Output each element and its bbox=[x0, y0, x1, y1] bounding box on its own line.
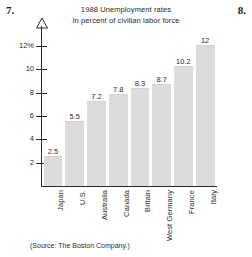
x-axis-category-label: Japan bbox=[56, 190, 65, 211]
y-axis-tick-label-wrap: 10 bbox=[0, 65, 34, 73]
bar-value-label: 12 bbox=[194, 36, 216, 45]
bar[interactable] bbox=[109, 94, 128, 186]
bar[interactable] bbox=[152, 84, 171, 187]
bar[interactable] bbox=[65, 121, 84, 186]
bar-slot: 10.2 bbox=[173, 46, 195, 186]
bar-slot: 8.7 bbox=[151, 46, 173, 186]
bar-chart: 24681012% 2.55.57.27.88.38.710.212 Japan… bbox=[0, 0, 252, 257]
bar-value-label: 5.5 bbox=[64, 112, 86, 121]
y-axis-tick-label: 4 bbox=[0, 135, 34, 143]
bar-slot: 2.5 bbox=[42, 46, 64, 186]
y-axis-tick-label-wrap: 12% bbox=[0, 42, 34, 50]
bar-value-label: 8.7 bbox=[151, 75, 173, 84]
y-axis-tick-label-wrap: 4 bbox=[0, 135, 34, 143]
bar[interactable] bbox=[131, 88, 150, 186]
y-axis-tick-label: 12% bbox=[0, 42, 34, 50]
x-axis-category-label: Canada bbox=[122, 190, 131, 217]
bar-slot: 7.2 bbox=[86, 46, 108, 186]
x-axis-line bbox=[41, 186, 217, 187]
x-axis-category-label: Italy bbox=[209, 190, 218, 204]
y-axis-tick-label: 8 bbox=[0, 89, 34, 97]
bar[interactable] bbox=[196, 45, 215, 186]
bars-group: 2.55.57.27.88.38.710.212 bbox=[42, 46, 216, 186]
y-axis-tick-label-wrap: 8 bbox=[0, 89, 34, 97]
y-axis-tick-label: 6 bbox=[0, 112, 34, 120]
x-axis-category-label: U.S. bbox=[78, 190, 87, 205]
bar[interactable] bbox=[44, 156, 63, 186]
bar-value-label: 2.5 bbox=[42, 147, 64, 156]
figure-panel: 7. 8. 1988 Unemployment rates In percent… bbox=[0, 0, 252, 257]
source-note: (Source: The Boston Company.) bbox=[30, 242, 130, 249]
x-axis-category-label: Australia bbox=[100, 190, 109, 220]
bar-slot: 12 bbox=[194, 46, 216, 186]
y-axis-tick-label-wrap: 2 bbox=[0, 159, 34, 167]
bar[interactable] bbox=[87, 101, 106, 186]
bar-value-label: 7.2 bbox=[86, 92, 108, 101]
bar-value-label: 10.2 bbox=[173, 57, 195, 66]
x-axis-category-label: Britain bbox=[143, 190, 152, 212]
x-axis-category-label: France bbox=[187, 190, 196, 214]
bar[interactable] bbox=[174, 66, 193, 186]
y-axis-tick-label: 2 bbox=[0, 159, 34, 167]
y-axis-tick-label-wrap: 6 bbox=[0, 112, 34, 120]
bar-slot: 5.5 bbox=[64, 46, 86, 186]
y-axis-tick-label: 10 bbox=[0, 65, 34, 73]
bar-value-label: 7.8 bbox=[107, 85, 129, 94]
bar-slot: 8.3 bbox=[129, 46, 151, 186]
bar-slot: 7.8 bbox=[107, 46, 129, 186]
x-axis-category-label: West Germany bbox=[165, 190, 174, 241]
bar-value-label: 8.3 bbox=[129, 79, 151, 88]
